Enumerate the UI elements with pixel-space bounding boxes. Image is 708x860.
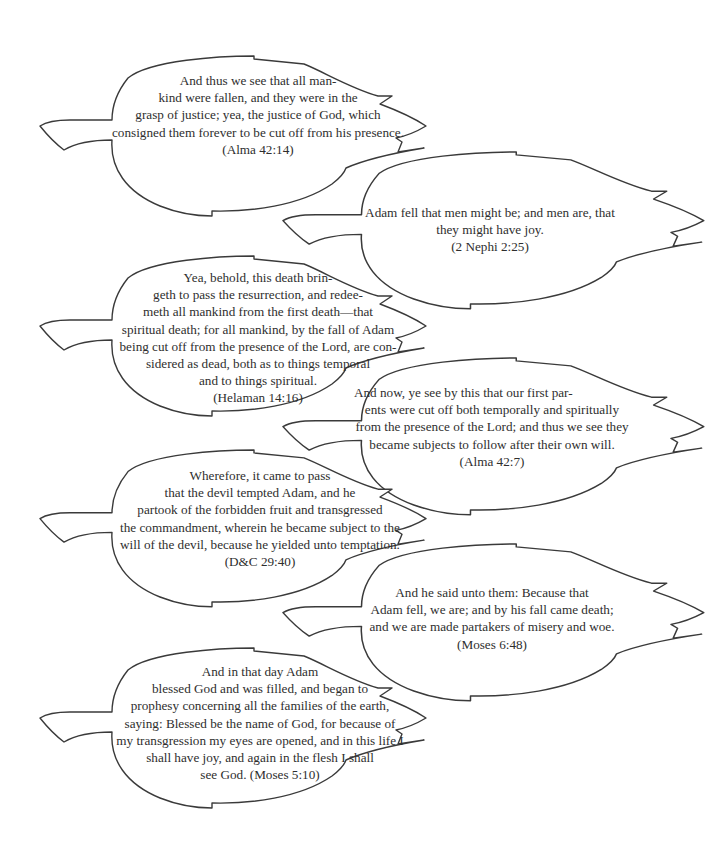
leaf-6-line: Adam fell, we are; and by his fall came …: [352, 601, 632, 618]
leaf-4-line: And now, ye see by this that our first p…: [352, 384, 632, 401]
leaf-6-reference: (Moses 6:48): [352, 636, 632, 653]
leaf-3-line: Yea, behold, this death brin-: [108, 269, 408, 286]
leaf-1-reference: (Alma 42:14): [108, 141, 408, 158]
leaf-7-line: shall have joy, and again in the flesh I…: [110, 749, 410, 766]
leaf-5-line: that the devil tempted Adam, and he: [110, 484, 410, 501]
leaf-6-quote: And he said unto them: Because that Adam…: [352, 584, 632, 653]
leaf-7-line: my transgression my eyes are opened, and…: [110, 732, 410, 749]
leaf-7-quote: And in that day Adam blessed God and was…: [110, 663, 410, 783]
leaf-7-line: saying: Blessed be the name of God, for …: [110, 715, 410, 732]
leaf-3-line: spiritual death; for all mankind, by the…: [108, 321, 408, 338]
leaf-5-line: the commandment, wherein he became subje…: [110, 519, 410, 536]
leaf-2-reference: (2 Nephi 2:25): [350, 238, 630, 255]
leaf-page: And thus we see that all man- kind were …: [0, 0, 708, 860]
leaf-7-reference: see God. (Moses 5:10): [110, 766, 410, 783]
leaf-7-line: blessed God and was filled, and began to: [110, 680, 410, 697]
leaf-4-quote: And now, ye see by this that our first p…: [352, 384, 632, 470]
leaf-3-line: geth to pass the resurrection, and redee…: [108, 286, 408, 303]
leaf-3-line: being cut off from the presence of the L…: [108, 338, 408, 355]
leaf-7-line: prophesy concerning all the families of …: [110, 697, 410, 714]
leaf-2-line: Adam fell that men might be; and men are…: [350, 204, 630, 221]
leaf-2-line: they might have joy.: [350, 221, 630, 238]
leaf-5-line: partook of the forbidden fruit and trans…: [110, 501, 410, 518]
leaf-4-line: ents were cut off both temporally and sp…: [352, 401, 632, 418]
leaf-5-line: will of the devil, because he yielded un…: [110, 536, 410, 553]
leaf-5-line: Wherefore, it came to pass: [110, 467, 410, 484]
leaf-4-line: became subjects to follow after their ow…: [352, 436, 632, 453]
leaf-1-line: grasp of justice; yea, the justice of Go…: [108, 106, 408, 123]
leaf-3-line: sidered as dead, both as to things tempo…: [108, 355, 408, 372]
leaf-7-line: And in that day Adam: [110, 663, 410, 680]
leaf-4-line: from the presence of the Lord; and thus …: [352, 418, 632, 435]
leaf-5-reference: (D&C 29:40): [110, 553, 410, 570]
leaf-5-quote: Wherefore, it came to pass that the devi…: [110, 467, 410, 570]
leaf-6-line: And he said unto them: Because that: [352, 584, 632, 601]
leaf-1-line: And thus we see that all man-: [108, 72, 408, 89]
leaf-3-line: meth all mankind from the first death—th…: [108, 303, 408, 320]
leaf-2-quote: Adam fell that men might be; and men are…: [350, 204, 630, 256]
leaf-1-quote: And thus we see that all man- kind were …: [108, 72, 408, 158]
leaf-6-line: and we are made partakers of misery and …: [352, 618, 632, 635]
leaf-1-line: consigned them forever to be cut off fro…: [108, 124, 408, 141]
leaf-1-line: kind were fallen, and they were in the: [108, 89, 408, 106]
